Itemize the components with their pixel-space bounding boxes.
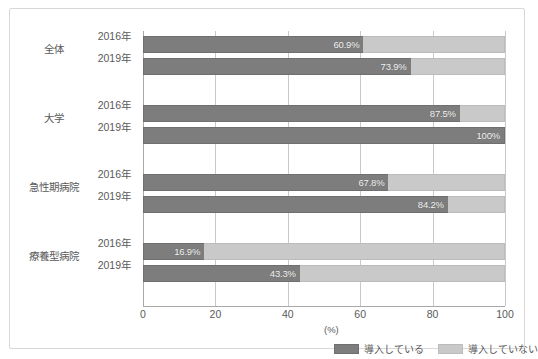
year-label: 2019年 [10, 257, 136, 274]
table-row: 87.5% [143, 105, 505, 122]
table-row: 67.8% [143, 174, 505, 191]
bar-segment-not-adopted [411, 58, 505, 75]
bar-segment-not-adopted [448, 196, 505, 213]
bar-value-label: 84.2% [418, 199, 448, 210]
bar-segment-not-adopted [204, 243, 505, 260]
plot-area: 60.9%73.9%87.5%100%67.8%84.2%16.9%43.3% [143, 31, 505, 306]
bar-value-label: 87.5% [430, 108, 460, 119]
year-label: 2019年 [10, 119, 136, 136]
x-tick-80: 80 [427, 308, 439, 320]
bar-segment-adopted: 60.9% [143, 36, 363, 53]
unit-label: (%) [324, 324, 339, 335]
bar-value-label: 16.9% [174, 246, 204, 257]
bar-segment-not-adopted [388, 174, 505, 191]
bar-value-label: 73.9% [381, 61, 411, 72]
year-label: 2016年 [10, 235, 136, 252]
x-tick-20: 20 [210, 308, 222, 320]
bar-value-label: 100% [477, 130, 505, 141]
table-row: 84.2% [143, 196, 505, 213]
legend-label: 導入している [364, 341, 424, 356]
table-row: 43.3% [143, 265, 505, 282]
x-tick-0: 0 [140, 308, 146, 320]
bar-segment-adopted: 16.9% [143, 243, 204, 260]
year-label: 2019年 [10, 50, 136, 67]
legend-item-0[interactable]: 導入している [334, 341, 424, 356]
table-row: 60.9% [143, 36, 505, 53]
year-label: 2019年 [10, 188, 136, 205]
table-row: 73.9% [143, 58, 505, 75]
legend-swatch-icon [438, 344, 463, 354]
bar-value-label: 67.8% [358, 177, 388, 188]
table-row: 100% [143, 127, 505, 144]
bar-segment-adopted: 43.3% [143, 265, 300, 282]
gridline-100 [505, 31, 506, 306]
legend-swatch-icon [334, 344, 359, 354]
x-tick-60: 60 [354, 308, 366, 320]
bar-segment-adopted: 87.5% [143, 105, 460, 122]
bar-value-label: 60.9% [334, 39, 364, 50]
bar-segment-adopted: 67.8% [143, 174, 388, 191]
bar-segment-adopted: 73.9% [143, 58, 411, 75]
legend-label: 導入していない [468, 341, 538, 356]
year-label: 2016年 [10, 166, 136, 183]
x-tick-100: 100 [496, 308, 514, 320]
x-axis-ticks: 020406080100 [143, 308, 505, 324]
x-tick-40: 40 [282, 308, 294, 320]
bar-segment-not-adopted [460, 105, 505, 122]
year-label: 2016年 [10, 97, 136, 114]
bar-segment-adopted: 100% [143, 127, 505, 144]
table-row: 16.9% [143, 243, 505, 260]
bar-segment-not-adopted [300, 265, 505, 282]
bar-segment-not-adopted [363, 36, 505, 53]
bar-value-label: 43.3% [270, 268, 300, 279]
bar-segment-adopted: 84.2% [143, 196, 448, 213]
chart-frame: 全体大学急性期病院療養型病院 2016年2019年2016年2019年2016年… [9, 8, 525, 349]
x-axis-line [143, 306, 505, 307]
chart-legend: 導入している導入していない [334, 341, 538, 356]
legend-item-1[interactable]: 導入していない [438, 341, 538, 356]
year-label: 2016年 [10, 28, 136, 45]
